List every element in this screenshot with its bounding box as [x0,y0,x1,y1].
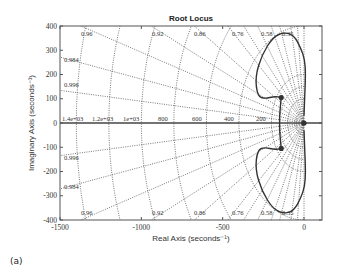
y-tick-label: 200 [46,70,58,79]
damping-label-bottom: 0.92 [152,209,163,216]
frequency-label: 200 [256,115,266,122]
damping-line [260,0,304,123]
damping-label-top: 0.58 [261,30,272,37]
damping-line [0,0,304,123]
y-axis-label: Imaginary Axis (seconds⁻¹) [27,75,36,171]
y-tick-label: -300 [43,191,57,200]
x-tick-label: -1000 [133,223,151,232]
x-tick-label: -500 [216,223,230,232]
frequency-label: 600 [192,115,202,122]
x-axis-label: Real Axis (seconds⁻¹) [152,234,230,243]
damping-label-bottom: 0.86 [194,209,206,216]
y-tick-label: -200 [43,167,57,176]
frequency-label: 1.2e+03 [92,115,113,122]
damping-label-left: 0.984 [64,183,79,190]
frequency-label: 800 [158,115,168,122]
damping-label-bottom: 0.58 [261,209,272,216]
frequency-label: 1e+03 [123,115,139,122]
damping-label-top: 0.96 [81,30,93,37]
pole-marker [279,95,284,100]
damping-label-top: 0.92 [152,30,163,37]
frequency-label: 400 [224,115,234,122]
pole-marker [301,120,306,125]
damping-line [284,0,304,123]
y-tick-label: -400 [43,216,57,225]
frequency-label: 1.4e+03 [62,115,83,122]
y-tick-label: 100 [46,94,58,103]
y-tick-label: 300 [46,46,58,55]
damping-label-left: 0.996 [64,81,79,88]
damping-line [260,123,304,253]
root-locus-chart: Root Locus 0.960.960.920.920.860.860.760… [0,0,340,256]
y-tick-label: -100 [43,143,57,152]
y-tick-label: 400 [46,22,58,31]
pole-marker [279,146,284,151]
frequency-arc [76,0,304,256]
damping-label-left: 0.984 [64,56,79,63]
damping-line [294,123,304,256]
damping-label-top: 0.86 [194,30,206,37]
damping-label-bottom: 0.76 [232,209,244,216]
x-tick-label: 0 [302,223,306,232]
damping-label-left: 0.996 [64,154,79,161]
damping-label-bottom: 0.96 [81,209,93,216]
damping-label-top: 0.76 [232,30,244,37]
damping-line [5,0,304,123]
frequency-arc [109,0,304,256]
chart-title: Root Locus [169,14,214,23]
panel-label: (a) [10,256,23,266]
y-tick-label: 0 [53,119,57,128]
